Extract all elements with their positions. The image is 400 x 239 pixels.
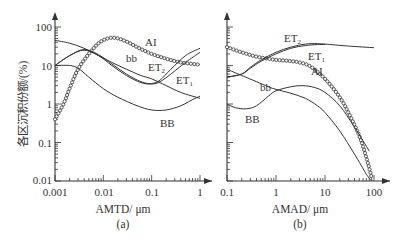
y-tick-10: 10 bbox=[41, 60, 53, 72]
ai-marker bbox=[156, 55, 159, 58]
ai-marker bbox=[193, 63, 196, 66]
x-tick-0.001: 0.001 bbox=[43, 186, 68, 198]
x-tick-1-b: 1 bbox=[273, 186, 279, 198]
ai-marker bbox=[238, 50, 241, 53]
ai-marker bbox=[67, 90, 70, 93]
ai-marker bbox=[66, 93, 69, 96]
ai-marker bbox=[298, 61, 301, 64]
ai-marker bbox=[235, 49, 238, 52]
y-tick-100: 100 bbox=[36, 21, 53, 33]
curve-label-ai-b: AI bbox=[311, 65, 323, 77]
y-tick-0.01: 0.01 bbox=[33, 174, 52, 186]
ai-marker bbox=[189, 62, 192, 65]
curve-label-et1-a: ET1 bbox=[176, 74, 193, 88]
ai-marker bbox=[166, 58, 169, 61]
ai-marker bbox=[255, 55, 258, 58]
ai-marker bbox=[106, 37, 109, 40]
x-tick-0.01: 0.01 bbox=[94, 186, 113, 198]
ai-marker bbox=[361, 145, 364, 148]
curve-label-bb-lower-b: bb bbox=[260, 81, 272, 93]
ai-marker bbox=[295, 60, 298, 63]
ai-marker bbox=[159, 56, 162, 59]
ai-marker bbox=[109, 36, 112, 39]
ai-marker bbox=[69, 84, 72, 87]
ai-marker bbox=[281, 59, 284, 62]
ai-marker bbox=[363, 151, 366, 154]
x-tick-0.1: 0.1 bbox=[145, 186, 159, 198]
ai-marker bbox=[153, 53, 156, 56]
ai-marker bbox=[72, 78, 75, 81]
ai-marker bbox=[278, 59, 281, 62]
ai-marker bbox=[271, 58, 274, 61]
ai-marker bbox=[71, 81, 74, 84]
ai-marker bbox=[122, 39, 125, 42]
ai-marker bbox=[369, 171, 372, 174]
ai-marker bbox=[169, 58, 172, 61]
curve-label-bb-upper-a: BB bbox=[160, 117, 175, 129]
ai-marker bbox=[150, 52, 153, 55]
curve-label-et1-b: ET1 bbox=[308, 50, 325, 64]
curve-label-et2-a: ET2 bbox=[148, 61, 165, 75]
caption-a: (a) bbox=[117, 218, 130, 231]
x-tick-100-b: 100 bbox=[366, 186, 383, 198]
curve-et2 bbox=[227, 44, 374, 77]
ai-marker bbox=[367, 165, 370, 168]
x-axis-title-b: AMAD/ μm bbox=[272, 203, 328, 216]
ai-marker bbox=[366, 161, 369, 164]
ai-marker bbox=[288, 59, 291, 62]
ai-marker bbox=[113, 36, 116, 39]
ai-marker bbox=[64, 97, 67, 100]
curve-label-et2-b: ET2 bbox=[284, 32, 301, 46]
ai-marker bbox=[292, 60, 295, 63]
caption-b: (b) bbox=[293, 218, 307, 231]
panel-a: 100 10 1 0.1 0.01 0.001 0.01 0.1 1 AMTD/… bbox=[33, 12, 212, 231]
deposition-fraction-figure: 100 10 1 0.1 0.01 0.001 0.01 0.1 1 AMTD/… bbox=[0, 0, 400, 239]
ai-marker bbox=[103, 38, 106, 41]
ai-marker bbox=[370, 174, 373, 177]
y-tick-0.1: 0.1 bbox=[38, 137, 52, 149]
ai-marker bbox=[63, 100, 66, 103]
y-axis-title: 各区沉积份额/(%) bbox=[16, 61, 30, 148]
ai-marker bbox=[365, 158, 368, 161]
panel-a-axes bbox=[52, 12, 212, 184]
ai-marker bbox=[251, 54, 254, 57]
ai-marker bbox=[68, 87, 71, 90]
ai-marker bbox=[163, 57, 166, 60]
ai-marker bbox=[229, 47, 232, 50]
ai-marker bbox=[245, 52, 248, 55]
x-tick-1: 1 bbox=[197, 186, 203, 198]
ai-marker bbox=[196, 63, 199, 66]
ai-marker bbox=[173, 59, 176, 62]
panel-b-axes bbox=[224, 12, 390, 184]
ai-marker bbox=[116, 37, 119, 40]
curve-label-ai-a: AI bbox=[145, 36, 157, 48]
ai-marker bbox=[119, 38, 122, 41]
ai-marker bbox=[179, 61, 182, 64]
ai-marker bbox=[147, 51, 150, 54]
ai-marker bbox=[275, 58, 278, 61]
curve-label-bb-lower-a: bb bbox=[126, 52, 138, 64]
panel-b: 0.1 1 10 100 AMAD/ μm (b) ET2 ET1 AI bb … bbox=[220, 12, 390, 231]
ai-marker bbox=[232, 48, 235, 51]
x-axis-title-a: AMTD/ μm bbox=[95, 203, 150, 216]
x-tick-0.1-b: 0.1 bbox=[220, 186, 234, 198]
ai-marker bbox=[285, 59, 288, 62]
ai-marker bbox=[302, 62, 305, 65]
x-tick-10-b: 10 bbox=[320, 186, 332, 198]
y-tick-1: 1 bbox=[47, 98, 53, 110]
ai-marker bbox=[258, 56, 261, 59]
ai-marker bbox=[248, 53, 251, 56]
ai-marker bbox=[364, 155, 367, 158]
ai-marker bbox=[241, 51, 244, 54]
curve-label-bb-upper-b: BB bbox=[245, 113, 260, 125]
ai-marker bbox=[368, 168, 371, 171]
ai-marker bbox=[360, 142, 363, 145]
ai-marker bbox=[225, 46, 228, 49]
ai-marker bbox=[362, 148, 365, 151]
